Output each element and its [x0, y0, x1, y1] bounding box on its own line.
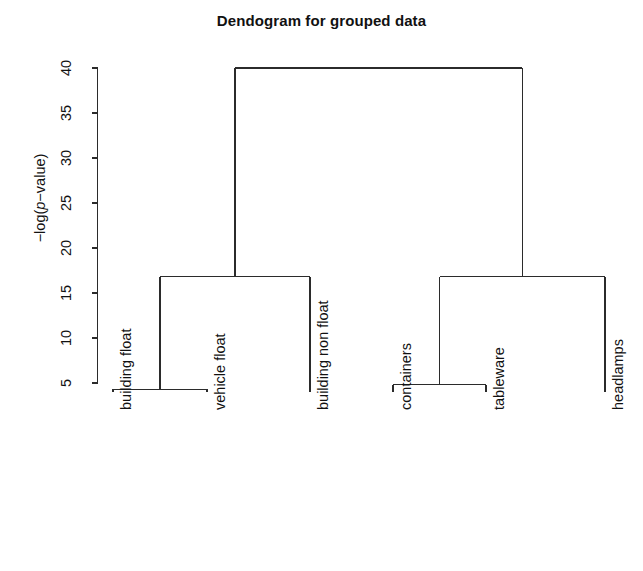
leaf-label-vehicle-float: vehicle float	[213, 333, 228, 410]
leaf-label-containers: containers	[399, 343, 414, 410]
leaf-label-building-float: building float	[119, 329, 134, 410]
y-axis	[92, 68, 98, 383]
leaf-label-tableware: tableware	[492, 347, 507, 410]
dendrogram-branches	[113, 68, 605, 392]
leaf-label-headlamps: headlamps	[611, 339, 626, 410]
dendrogram-plot: Dendogram for grouped data −log(p−value)…	[0, 0, 643, 571]
leaf-label-building-non-float: building non float	[316, 300, 331, 410]
dendrogram-canvas	[0, 0, 643, 571]
